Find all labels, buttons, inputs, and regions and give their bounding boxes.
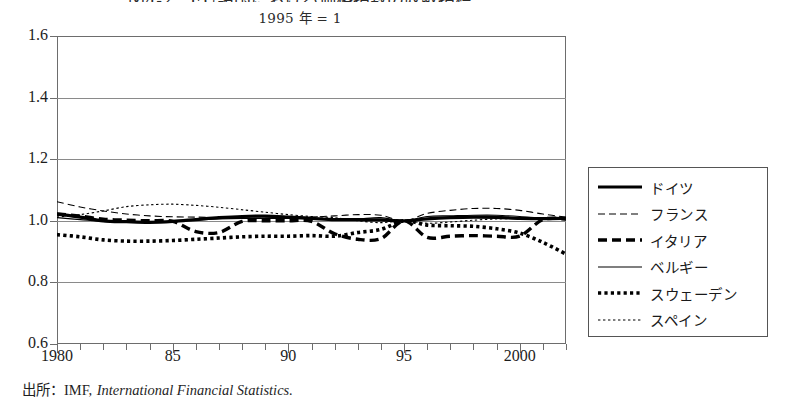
gridline bbox=[57, 221, 566, 222]
legend-label: スペイン bbox=[650, 309, 707, 330]
source-prefix: 出所：IMF, bbox=[22, 382, 92, 398]
figure-container: 図4-2 EU諸国における価格指数の収斂指標 1995 年 = 1 1.61.4… bbox=[0, 0, 793, 414]
legend-box: ドイツフランスイタリアベルギースウェーデンスペイン bbox=[588, 167, 768, 337]
y-axis-tick bbox=[50, 36, 57, 37]
x-axis-minor-tick bbox=[358, 344, 359, 350]
y-axis-label: 1.4 bbox=[0, 88, 48, 106]
plot-frame bbox=[57, 36, 566, 344]
x-axis-minor-tick bbox=[497, 344, 498, 350]
x-axis-minor-tick bbox=[126, 344, 127, 350]
legend-label: ベルギー bbox=[650, 256, 708, 277]
legend-line-sample bbox=[597, 313, 643, 327]
figure-subtitle: 1995 年 = 1 bbox=[0, 7, 600, 27]
x-axis-minor-tick bbox=[473, 344, 474, 350]
x-axis-minor-tick bbox=[312, 344, 313, 350]
x-axis-minor-tick bbox=[265, 344, 266, 350]
x-axis-minor-tick bbox=[543, 344, 544, 350]
legend-line-sample bbox=[597, 286, 643, 300]
y-axis-tick bbox=[50, 159, 57, 160]
x-axis-label: 95 bbox=[396, 347, 412, 365]
x-axis-minor-tick bbox=[450, 344, 451, 350]
y-axis-tick bbox=[50, 282, 57, 283]
y-axis-tick bbox=[50, 344, 57, 345]
y-axis-label: 1.0 bbox=[0, 211, 48, 229]
x-axis-minor-tick bbox=[335, 344, 336, 350]
x-axis-label: 85 bbox=[165, 347, 181, 365]
source-note: 出所：IMF, International Financial Statisti… bbox=[22, 378, 293, 399]
x-axis-minor-tick bbox=[381, 344, 382, 350]
legend-item[interactable]: ドイツ bbox=[597, 174, 763, 200]
legend-item[interactable]: スウェーデン bbox=[597, 280, 763, 306]
legend-line-sample bbox=[597, 180, 643, 194]
y-axis-tick bbox=[50, 221, 57, 222]
x-axis-label: 90 bbox=[280, 347, 296, 365]
x-axis-minor-tick bbox=[566, 344, 567, 350]
x-axis-minor-tick bbox=[150, 344, 151, 350]
gridline bbox=[57, 98, 566, 99]
y-axis-label: 1.2 bbox=[0, 149, 48, 167]
x-axis-label: 2000 bbox=[504, 347, 536, 365]
legend-item[interactable]: イタリア bbox=[597, 227, 763, 253]
x-axis-minor-tick bbox=[196, 344, 197, 350]
x-axis-minor-tick bbox=[219, 344, 220, 350]
legend-line-sample bbox=[597, 260, 643, 274]
x-axis-minor-tick bbox=[242, 344, 243, 350]
legend-item[interactable]: ベルギー bbox=[597, 254, 763, 280]
legend-line-sample bbox=[597, 207, 643, 221]
figure-title: 図4-2 EU諸国における価格指数の収斂指標 bbox=[0, 0, 600, 2]
gridline bbox=[57, 159, 566, 160]
gridline bbox=[57, 282, 566, 283]
x-axis-minor-tick bbox=[103, 344, 104, 350]
legend-label: イタリア bbox=[650, 230, 707, 251]
x-axis-label: 1980 bbox=[41, 347, 73, 365]
x-axis-minor-tick bbox=[80, 344, 81, 350]
legend-item[interactable]: スペイン bbox=[597, 307, 763, 333]
y-axis-tick bbox=[50, 98, 57, 99]
legend-item[interactable]: フランス bbox=[597, 201, 763, 227]
y-axis-label: 0.8 bbox=[0, 272, 48, 290]
legend-line-sample bbox=[597, 233, 643, 247]
source-publication: International Financial Statistics. bbox=[97, 382, 293, 398]
legend-label: スウェーデン bbox=[650, 283, 737, 304]
x-axis-minor-tick bbox=[427, 344, 428, 350]
legend-label: フランス bbox=[650, 203, 708, 224]
y-axis-label: 1.6 bbox=[0, 26, 48, 44]
legend-label: ドイツ bbox=[650, 177, 694, 198]
